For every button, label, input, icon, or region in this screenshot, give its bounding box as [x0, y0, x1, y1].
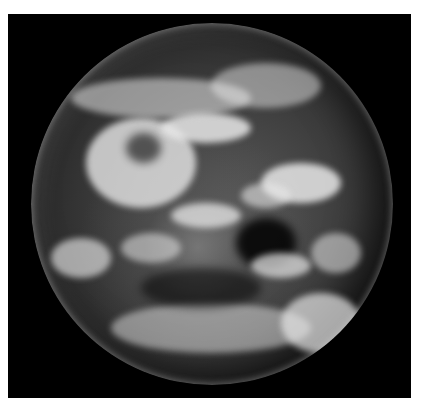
- earth-globe: [31, 23, 393, 385]
- atmosphere-limb: [31, 23, 393, 385]
- space-background: [8, 14, 411, 398]
